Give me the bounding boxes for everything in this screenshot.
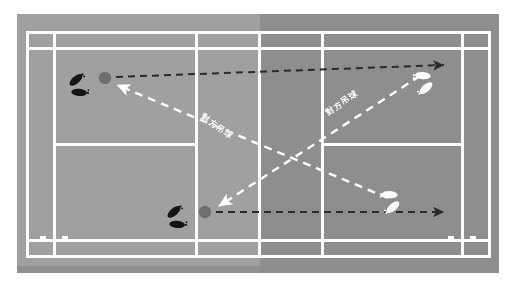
tick-mark [62, 236, 68, 239]
shuttle-bottom-left [199, 206, 211, 218]
tick-mark [470, 236, 476, 239]
diagram-canvas: 對方吊球 對方吊球 [0, 0, 516, 289]
tick-mark [448, 236, 454, 239]
badminton-court-diagram [0, 0, 516, 289]
court-bottom-shadow-strip [17, 266, 499, 273]
tick-mark [40, 236, 46, 239]
shuttle-top-left [99, 72, 111, 84]
